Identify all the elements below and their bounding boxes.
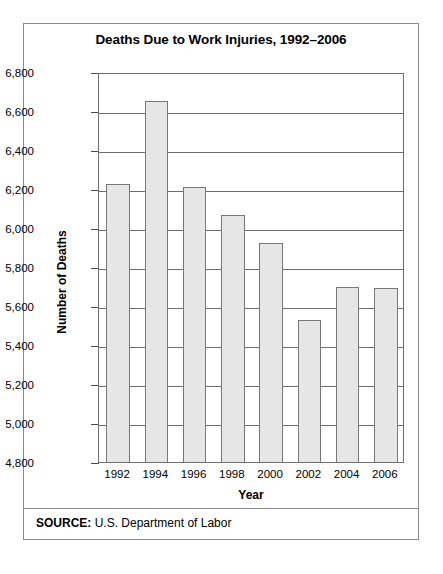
y-axis-tick-label: 5,800 [0, 262, 34, 274]
y-axis-tick-label: 5,400 [0, 340, 34, 352]
chart-figure: Deaths Due to Work Injuries, 1992–2006 N… [23, 23, 419, 540]
source-divider [24, 508, 418, 509]
y-axis-tick-mark [91, 463, 99, 464]
bar [298, 320, 322, 462]
source-note: SOURCE: U.S. Department of Labor [36, 516, 231, 530]
y-axis-tick-label: 6,800 [0, 67, 34, 79]
source-label: SOURCE: [36, 516, 91, 530]
bar [374, 288, 398, 462]
bar [336, 287, 360, 463]
y-axis-tick-label: 5,600 [0, 301, 34, 313]
source-text: U.S. Department of Labor [91, 516, 231, 530]
bar [183, 187, 207, 462]
plot-area [98, 73, 404, 463]
bar [259, 243, 283, 462]
bar [221, 215, 245, 462]
y-axis-title: Number of Deaths [55, 182, 69, 382]
y-axis-tick-label: 6,000 [0, 223, 34, 235]
y-axis-tick-label: 4,800 [0, 457, 34, 469]
x-axis-title: Year [98, 488, 404, 502]
y-axis-tick-label: 5,200 [0, 379, 34, 391]
chart-title: Deaths Due to Work Injuries, 1992–2006 [24, 32, 418, 47]
bar [145, 101, 169, 462]
y-axis-tick-label: 5,000 [0, 418, 34, 430]
y-axis-tick-label: 6,600 [0, 106, 34, 118]
y-axis-tick-label: 6,400 [0, 145, 34, 157]
x-axis-tick-label: 2006 [355, 468, 415, 480]
bar [106, 184, 130, 462]
y-axis-tick-label: 6,200 [0, 184, 34, 196]
